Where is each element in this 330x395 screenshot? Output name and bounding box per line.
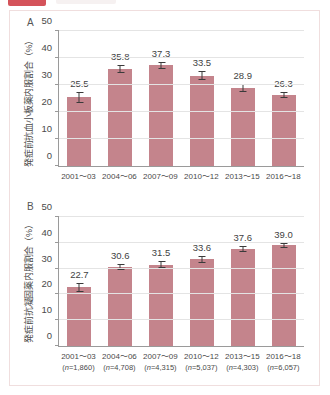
bar-value-label: 31.5: [152, 247, 171, 258]
y-tick-mark: [55, 268, 59, 269]
x-category-sample-size: (n=4,315): [140, 362, 181, 373]
y-tick-mark: [55, 293, 59, 294]
bar-slot: 39.0: [263, 217, 304, 346]
y-tick-label: 30: [41, 252, 52, 263]
x-axis-category-label: 2004～06(n=4,708): [99, 351, 140, 373]
bar: 37.6: [231, 249, 255, 346]
x-axis-category-label: 2004～06: [99, 171, 140, 182]
y-tick-mark: [55, 319, 59, 320]
bar-slot: 35.8: [100, 31, 141, 166]
panel-a-x-axis-labels: 2001～032004～062007～092010～122013～152016～…: [58, 171, 304, 182]
x-category-text: 2007～09: [140, 171, 181, 182]
x-category-text: 2007～09: [140, 351, 181, 362]
y-tick-mark: [55, 84, 59, 85]
y-tick-label: 10: [41, 304, 52, 315]
bar: 25.5: [67, 97, 91, 166]
panel-a-letter: A: [27, 17, 34, 28]
bar-slot: 37.6: [222, 217, 263, 346]
figure-frame: A 発症前抗血小板薬内服割合（%） 25.535.837.333.528.926…: [9, 10, 320, 386]
y-tick-mark: [55, 111, 59, 112]
gridline: [59, 84, 304, 85]
bar: 39.0: [272, 245, 296, 346]
bar-slot: 37.3: [141, 31, 182, 166]
bar-value-label: 22.7: [70, 269, 89, 280]
y-tick-label: 0: [47, 150, 52, 161]
panel-b-plot-area: 22.730.631.533.637.639.0 01020304050: [58, 217, 304, 347]
error-bar: [201, 256, 202, 263]
x-category-text: 2004～06: [99, 351, 140, 362]
red-tag-badge: [8, 0, 46, 6]
x-category-sample-size: (n=1,860): [58, 362, 99, 373]
y-tick-mark: [55, 216, 59, 217]
panel-b-axes: 22.730.631.533.637.639.0 01020304050: [58, 217, 304, 347]
bar-slot: 28.9: [222, 31, 263, 166]
gridline: [59, 111, 304, 112]
panel-b-y-axis-label: 発症前抗凝固薬内服割合（%）: [22, 212, 35, 352]
x-axis-category-label: 2007～09(n=4,315): [140, 351, 181, 373]
bar: 22.7: [67, 287, 91, 346]
x-category-text: 2013～15: [222, 351, 263, 362]
bar-value-label: 33.6: [193, 242, 212, 253]
bar-value-label: 39.0: [274, 229, 293, 240]
bar-slot: 26.3: [263, 31, 304, 166]
bar-value-label: 28.9: [233, 70, 252, 81]
y-tick-mark: [55, 30, 59, 31]
y-tick-mark: [55, 345, 59, 346]
x-axis-category-label: 2013～15(n=4,303): [222, 351, 263, 373]
x-axis-category-label: 2016～18: [263, 171, 304, 182]
x-category-text: 2001～03: [58, 351, 99, 362]
gridline: [59, 30, 304, 31]
y-tick-label: 40: [41, 226, 52, 237]
y-tick-label: 20: [41, 96, 52, 107]
bar-value-label: 30.6: [111, 250, 130, 261]
error-bar: [283, 243, 284, 249]
x-category-sample-size: (n=5,037): [181, 362, 222, 373]
panel-a-y-axis-label: 発症前抗血小板薬内服割合（%）: [22, 32, 35, 172]
y-tick-label: 20: [41, 278, 52, 289]
bar-slot: 25.5: [59, 31, 100, 166]
x-category-text: 2010～12: [181, 351, 222, 362]
bar-value-label: 33.5: [193, 57, 212, 68]
x-axis-category-label: 2010～12: [181, 171, 222, 182]
x-category-sample-size: (n=6,057): [263, 362, 304, 373]
bar: 30.6: [108, 267, 132, 346]
panel-b-bars: 22.730.631.533.637.639.0: [59, 217, 304, 346]
gridline: [59, 216, 304, 217]
y-tick-label: 30: [41, 69, 52, 80]
panel-a-axes: 25.535.837.333.528.926.3 01020304050: [58, 31, 304, 167]
x-category-text: 2016～18: [263, 171, 304, 182]
y-tick-label: 50: [41, 15, 52, 26]
y-tick-mark: [55, 165, 59, 166]
x-axis-category-label: 2010～12(n=5,037): [181, 351, 222, 373]
y-tick-mark: [55, 242, 59, 243]
x-category-text: 2004～06: [99, 171, 140, 182]
panel-b-x-axis-labels: 2001～03(n=1,860)2004～06(n=4,708)2007～09(…: [58, 351, 304, 373]
x-axis-category-label: 2013～15: [222, 171, 263, 182]
gridline: [59, 268, 304, 269]
x-category-text: 2013～15: [222, 171, 263, 182]
bar-slot: 22.7: [59, 217, 100, 346]
bar: 33.6: [190, 259, 214, 346]
x-axis-category-label: 2001～03: [58, 171, 99, 182]
y-tick-label: 10: [41, 123, 52, 134]
x-axis-category-label: 2016～18(n=6,057): [263, 351, 304, 373]
y-tick-mark: [55, 57, 59, 58]
error-bar: [120, 65, 121, 73]
panel-a-plot-area: 25.535.837.333.528.926.3 01020304050: [58, 31, 304, 167]
bar-slot: 31.5: [141, 217, 182, 346]
top-badge-strip: [0, 0, 330, 9]
y-tick-label: 0: [47, 330, 52, 341]
error-bar: [283, 92, 284, 98]
error-bar: [79, 283, 80, 292]
y-tick-mark: [55, 138, 59, 139]
y-tick-label: 50: [41, 201, 52, 212]
x-category-sample-size: (n=4,708): [99, 362, 140, 373]
error-bar: [79, 92, 80, 103]
x-category-text: 2001～03: [58, 171, 99, 182]
error-bar: [201, 71, 202, 80]
x-axis-category-label: 2007～09: [140, 171, 181, 182]
badge-ghost-text: [56, 0, 116, 4]
bar: 31.5: [149, 265, 173, 346]
bar: 33.5: [190, 76, 214, 166]
x-axis-category-label: 2001～03(n=1,860): [58, 351, 99, 373]
